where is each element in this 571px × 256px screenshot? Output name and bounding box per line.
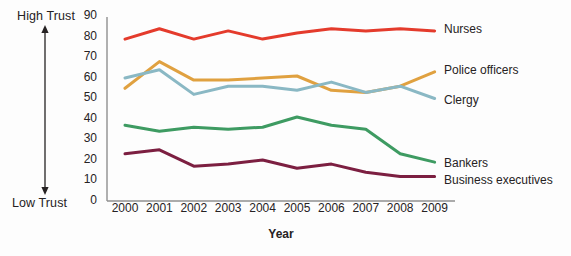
y-tick-label: 0 xyxy=(57,194,97,208)
y-tick-label: 70 xyxy=(57,50,97,64)
y-tick-label: 90 xyxy=(57,9,97,23)
y-tick-label: 40 xyxy=(57,112,97,126)
arrow-down-icon xyxy=(41,187,48,195)
y-tick-label: 10 xyxy=(57,173,97,187)
series-label-business-executives: Business executives xyxy=(444,174,553,188)
series-label-clergy: Clergy xyxy=(444,94,479,108)
y-tick-label: 60 xyxy=(57,71,97,85)
series-label-nurses: Nurses xyxy=(444,23,482,37)
x-axis-title: Year xyxy=(251,228,311,242)
x-tick-label: 2009 xyxy=(413,202,457,216)
y-tick-label: 20 xyxy=(57,153,97,167)
trust-in-professions-figure: High Trust Low Trust Year 01020304050607… xyxy=(0,0,571,256)
y-tick-label: 80 xyxy=(57,30,97,44)
y-tick-label: 30 xyxy=(57,132,97,146)
series-label-bankers: Bankers xyxy=(444,157,488,171)
series-line-clergy xyxy=(125,70,435,99)
arrow-up-icon xyxy=(41,25,48,33)
y-tick-label: 50 xyxy=(57,91,97,105)
series-line-nurses xyxy=(125,29,435,39)
series-label-police-officers: Police officers xyxy=(444,64,518,78)
series-line-business-executives xyxy=(125,150,435,177)
